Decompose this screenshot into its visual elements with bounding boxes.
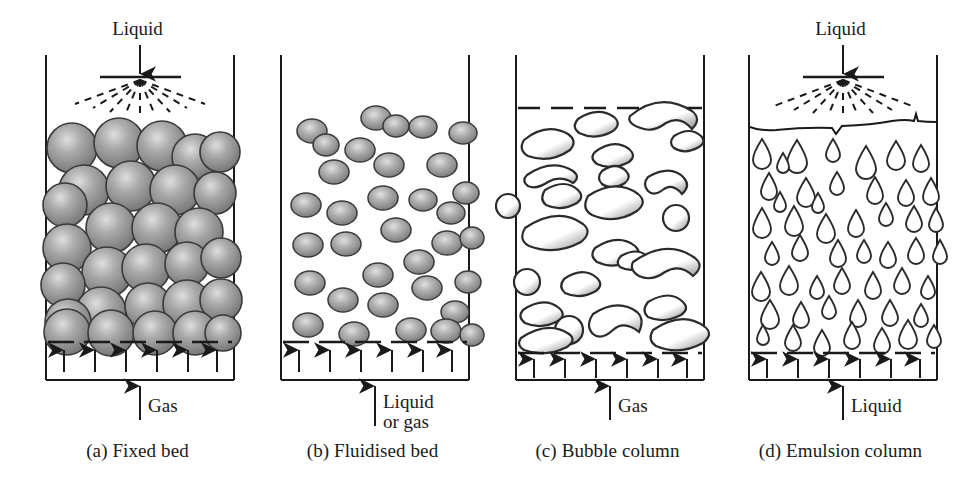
spray-nozzle-a — [100, 45, 181, 77]
panel-d-bottom-label: Liquid — [851, 396, 902, 416]
panel-b-bottom-label-line1: Liquid — [383, 392, 434, 412]
panel-a-bottom-label: Gas — [148, 396, 178, 416]
reactor-types-figure: Liquid — [0, 0, 975, 494]
panel-fixed-bed: Liquid — [15, 0, 260, 494]
panel-a-drawing — [15, 0, 260, 430]
panel-b-bottom-label: Liquid or gas — [383, 392, 434, 432]
liquid-surface-line-d — [750, 114, 937, 134]
spray-rays-a — [75, 80, 205, 116]
panel-c-drawing — [485, 0, 730, 430]
panel-d-drawing — [718, 0, 963, 430]
inlet-arrows-c — [534, 359, 687, 378]
inlet-arrows-b — [299, 350, 452, 372]
panel-d-caption: (d) Emulsion column — [718, 440, 963, 462]
panel-b-bottom-label-line2: or gas — [383, 412, 434, 432]
panel-bubble-column: Gas (c) Bubble column — [485, 0, 730, 494]
panel-b-caption: (b) Fluidised bed — [250, 440, 495, 462]
panel-fluidised-bed: Liquid or gas (b) Fluidised bed — [250, 0, 495, 494]
packed-particles-a — [41, 118, 242, 356]
panel-emulsion-column: Liquid — [718, 0, 963, 494]
spray-rays-d — [774, 80, 912, 118]
panel-a-caption: (a) Fixed bed — [15, 440, 260, 462]
panel-c-bottom-label: Gas — [618, 396, 648, 416]
panel-b-drawing — [250, 0, 495, 430]
fluidised-particles-b — [291, 106, 484, 346]
panel-c-caption: (c) Bubble column — [485, 440, 730, 462]
bubbles-c — [496, 102, 709, 353]
spray-nozzle-d — [803, 45, 884, 77]
inlet-arrows-d — [767, 359, 920, 378]
droplets-d — [752, 139, 947, 356]
